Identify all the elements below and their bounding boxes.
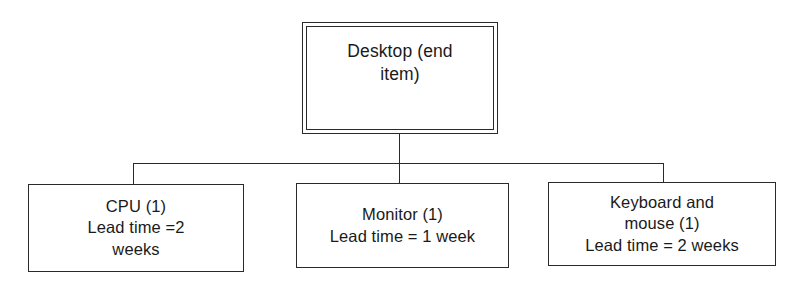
node-monitor: Monitor (1) Lead time = 1 week bbox=[296, 183, 509, 268]
node-cpu: CPU (1) Lead time =2 weeks bbox=[28, 184, 244, 272]
node-monitor-label: Monitor (1) Lead time = 1 week bbox=[297, 204, 508, 247]
node-desktop-inner-frame: Desktop (end item) bbox=[306, 26, 494, 130]
bom-tree-diagram: Desktop (end item) CPU (1) Lead time =2 … bbox=[0, 0, 793, 293]
connector-drop-keyboard bbox=[663, 163, 664, 183]
node-keyboard-and-mouse-label: Keyboard and mouse (1) Lead time = 2 wee… bbox=[549, 192, 775, 256]
node-desktop-end-item: Desktop (end item) bbox=[302, 22, 498, 134]
connector-root-trunk bbox=[399, 134, 400, 164]
node-desktop-label: Desktop (end item) bbox=[307, 40, 493, 116]
node-cpu-label: CPU (1) Lead time =2 weeks bbox=[29, 196, 243, 260]
connector-drop-monitor bbox=[399, 163, 400, 184]
connector-drop-cpu bbox=[133, 163, 134, 185]
node-keyboard-and-mouse: Keyboard and mouse (1) Lead time = 2 wee… bbox=[548, 182, 776, 266]
